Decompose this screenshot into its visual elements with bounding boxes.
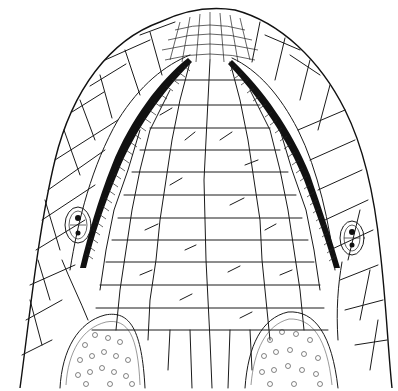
left-stoma	[65, 207, 91, 243]
right-serration	[230, 66, 336, 261]
botanical-illustration	[0, 0, 398, 391]
central-cells	[92, 60, 328, 388]
right-granular-body	[245, 312, 338, 388]
left-serration	[86, 66, 190, 259]
right-dark-margin	[228, 60, 340, 268]
left-granular-body	[60, 314, 145, 388]
right-stoma	[340, 221, 364, 255]
apex-cells	[162, 12, 258, 62]
right-flank-cells	[252, 22, 387, 370]
left-basal-gap	[62, 260, 88, 320]
shoot-apex-drawing	[0, 0, 398, 391]
left-flank-cells	[22, 22, 175, 355]
left-dark-margin	[80, 58, 192, 268]
right-basal-gap	[337, 262, 342, 340]
